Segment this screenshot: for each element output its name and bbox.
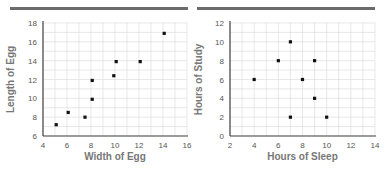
y-axis-label: Hours of Study <box>193 43 204 115</box>
x-tick-label: 14 <box>371 141 380 150</box>
x-tick-label: 6 <box>276 141 281 150</box>
y-tick-label: 10 <box>215 38 224 47</box>
data-point <box>253 78 256 81</box>
y-tick-label: 8 <box>220 57 225 66</box>
x-axis-label: Hours of Sleep <box>267 151 338 162</box>
sleep-study-scatter-chart: 2468101214024681012Hours of SleepHours o… <box>0 0 387 179</box>
x-tick-label: 12 <box>346 141 355 150</box>
y-tick-label: 4 <box>220 94 225 103</box>
data-point <box>325 116 328 119</box>
x-tick-label: 8 <box>300 141 305 150</box>
data-point <box>301 78 304 81</box>
y-tick-label: 0 <box>220 132 225 141</box>
data-point <box>313 59 316 62</box>
y-tick-label: 2 <box>220 113 225 122</box>
data-point <box>313 97 316 100</box>
data-point <box>289 116 292 119</box>
x-tick-label: 10 <box>322 141 331 150</box>
x-tick-label: 4 <box>252 141 257 150</box>
x-tick-label: 2 <box>228 141 233 150</box>
data-point <box>277 59 280 62</box>
data-point <box>289 40 292 43</box>
y-tick-label: 12 <box>215 19 224 28</box>
y-tick-label: 6 <box>220 76 225 85</box>
